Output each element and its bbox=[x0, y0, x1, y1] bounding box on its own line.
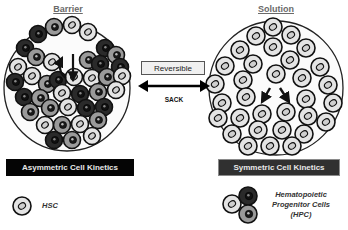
hsc-cell-icon bbox=[231, 109, 249, 127]
hsc-cell-icon bbox=[37, 117, 54, 134]
hsc-cell-icon bbox=[299, 107, 317, 125]
hsc-cell-icon bbox=[283, 137, 301, 155]
hsc-cell-icon bbox=[234, 71, 252, 89]
hsc-cell-icon bbox=[44, 54, 61, 71]
hsc-cell-icon bbox=[244, 55, 262, 73]
hsc-cell-icon bbox=[247, 27, 265, 45]
hsc-cell-icon bbox=[223, 195, 241, 213]
hpc-cell-icon bbox=[90, 112, 107, 129]
hsc-cell-icon bbox=[297, 39, 315, 57]
hsc-cell-icon bbox=[84, 128, 101, 145]
legend-hpc-line-3: (HPC) bbox=[256, 210, 346, 220]
hsc-cell-icon bbox=[239, 137, 257, 155]
reversible-label-box: Reversible bbox=[141, 61, 205, 75]
legend-hpc-label: Hematopoietic Progenitor Cells (HPC) bbox=[256, 190, 346, 220]
hpc-cell-icon bbox=[30, 26, 47, 43]
hsc-cell-icon bbox=[261, 137, 279, 155]
hpc-cell-icon bbox=[46, 19, 63, 36]
hsc-cell-icon bbox=[297, 90, 315, 108]
hsc-cell-icon bbox=[281, 51, 299, 69]
hsc-cell-icon bbox=[206, 75, 224, 93]
hpc-cell-icon bbox=[239, 187, 257, 205]
left-arrowhead-icon bbox=[138, 80, 148, 92]
hpc-cell-icon bbox=[28, 49, 45, 66]
hsc-cell-icon bbox=[267, 65, 285, 83]
reversible-double-arrow bbox=[138, 80, 210, 92]
hpc-cell-icon bbox=[42, 100, 59, 117]
hsc-cell-icon bbox=[277, 103, 295, 121]
hsc-cell-icon bbox=[264, 38, 282, 56]
hpc-cell-icon bbox=[22, 104, 39, 121]
hsc-cell-icon bbox=[64, 17, 81, 34]
hsc-cell-icon bbox=[237, 88, 255, 106]
sack-label: SACK bbox=[158, 96, 190, 103]
hpc-cell-icon bbox=[7, 74, 24, 91]
hsc-cell-icon bbox=[293, 69, 311, 87]
hsc-cell-icon bbox=[13, 197, 31, 215]
symmetric-kinetics-banner: Symmetric Cell Kinetics bbox=[218, 159, 340, 176]
hpc-cell-icon bbox=[46, 132, 63, 149]
hpc-cell-icon bbox=[64, 132, 81, 149]
hsc-cell-icon bbox=[311, 58, 329, 76]
hsc-cell-icon bbox=[216, 57, 234, 75]
hsc-cell-icon bbox=[80, 24, 97, 41]
legend-hpc-line-1: Hematopoietic bbox=[256, 190, 346, 200]
asymmetric-kinetics-banner: Asymmetric Cell Kinetics bbox=[6, 159, 134, 176]
legend-hsc-label: HSC bbox=[42, 201, 58, 210]
legend-hpc-line-2: Progenitor Cells bbox=[256, 200, 346, 210]
hsc-cell-icon bbox=[209, 109, 227, 127]
hsc-cell-icon bbox=[60, 99, 77, 116]
hsc-cell-icon bbox=[317, 113, 335, 131]
hsc-cell-icon bbox=[324, 94, 342, 112]
hsc-cell-icon bbox=[249, 121, 267, 139]
hsc-cell-icon bbox=[231, 41, 249, 59]
hsc-cell-icon bbox=[253, 105, 271, 123]
hsc-cell-icon bbox=[108, 82, 125, 99]
hsc-cell-icon bbox=[264, 18, 282, 36]
hsc-cell-icon bbox=[223, 125, 241, 143]
hpc-cell-icon bbox=[239, 205, 257, 223]
hsc-cell-icon bbox=[273, 121, 291, 139]
hsc-cell-icon bbox=[282, 26, 300, 44]
hsc-cell-icon bbox=[319, 76, 337, 94]
